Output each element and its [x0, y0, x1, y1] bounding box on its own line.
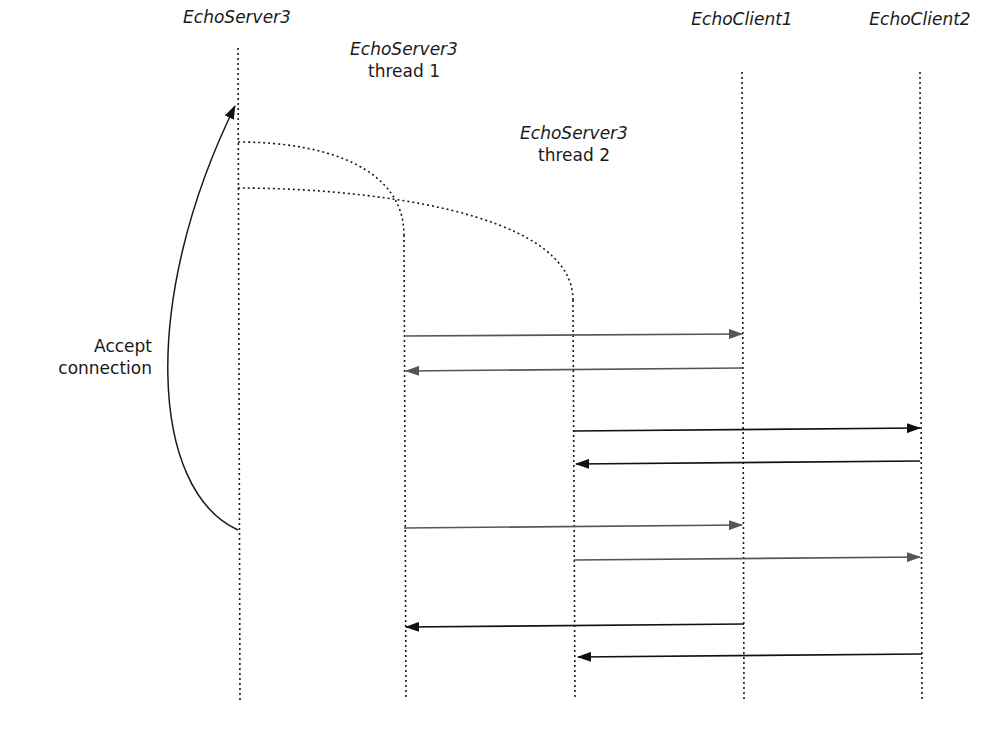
- lifeline-thread1: [404, 235, 406, 700]
- sequence-diagram-canvas: [0, 0, 1006, 750]
- lifeline-thread2: [573, 300, 575, 700]
- spawn-thread1-curve: [238, 142, 404, 235]
- accept-connection-arrow: [168, 106, 238, 530]
- lifeline-echoclient2: [920, 72, 922, 700]
- message-thread1-to-client1-2: [404, 525, 742, 528]
- message-client2-to-thread2-2: [578, 654, 922, 657]
- message-thread2-to-client2-1: [573, 428, 920, 431]
- lifeline-echoclient1: [742, 72, 744, 700]
- message-thread2-to-client2-2: [574, 557, 920, 560]
- spawn-thread2-curve: [238, 188, 573, 300]
- message-thread1-to-client1-1: [404, 334, 742, 336]
- message-client2-to-thread2-1: [576, 461, 920, 464]
- lifeline-echoserver3: [238, 48, 240, 700]
